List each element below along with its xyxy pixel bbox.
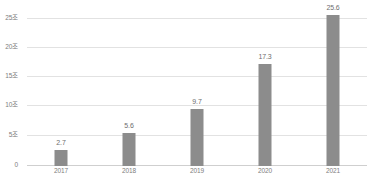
bar-slot-2019: 9.7	[163, 18, 231, 166]
x-axis-tick-2020: 2020	[231, 168, 299, 175]
x-axis-tick-2019: 2019	[163, 168, 231, 175]
bar-value-2020: 17.3	[258, 53, 271, 60]
x-axis-tick-2018: 2018	[95, 168, 163, 175]
bar-slot-2021: 25.6	[299, 18, 367, 166]
bar-2020[interactable]	[259, 64, 272, 166]
bar-value-2017: 2.7	[56, 139, 65, 146]
y-axis-tick-0: 0	[0, 162, 18, 169]
bar-2017[interactable]	[55, 150, 68, 166]
x-axis: 2017 2018 2019 2020 2021	[27, 168, 367, 182]
y-axis-tick-25: 25조	[0, 15, 18, 22]
x-axis-tick-2017: 2017	[27, 168, 95, 175]
bar-value-2019: 9.7	[192, 98, 201, 105]
bar-2018[interactable]	[123, 133, 136, 166]
y-axis-tick-15: 15조	[0, 73, 18, 80]
y-axis-tick-10: 10조	[0, 102, 18, 109]
bar-value-2021: 25.6	[326, 4, 339, 11]
bar-slot-2017: 2.7	[27, 18, 95, 166]
plot-area: 25조 20조 15조 10조 5조 0 2.7 5.6 9.7 17.3 25…	[27, 18, 367, 166]
bar-value-2018: 5.6	[124, 122, 133, 129]
y-axis-tick-20: 20조	[0, 44, 18, 51]
bar-2019[interactable]	[191, 109, 204, 166]
bar-chart: 25조 20조 15조 10조 5조 0 2.7 5.6 9.7 17.3 25…	[0, 0, 372, 183]
bar-2021[interactable]	[327, 15, 340, 166]
x-axis-tick-2021: 2021	[299, 168, 367, 175]
y-axis-tick-5: 5조	[0, 132, 18, 139]
bar-slot-2020: 17.3	[231, 18, 299, 166]
bar-slot-2018: 5.6	[95, 18, 163, 166]
